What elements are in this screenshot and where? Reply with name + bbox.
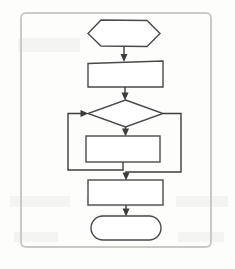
flowchart-edge-process1-to-decision [122, 87, 129, 101]
hexagon-shape [88, 20, 160, 47]
rectangle-shape [88, 180, 163, 205]
flowchart-edge-decision-to-loopbody [122, 127, 129, 137]
flowchart-edge-start-to-process1 [121, 47, 128, 63]
scanned-figure-page [0, 0, 235, 269]
arrowhead-icon [122, 93, 129, 101]
flowchart-node-end [91, 216, 161, 240]
flowchart-edge-process2-to-end [123, 205, 130, 217]
flowchart-node-start [88, 20, 160, 47]
arrowhead-icon [81, 110, 89, 117]
flowchart-node-decision [88, 100, 163, 127]
rounded-rectangle-shape [91, 216, 161, 240]
flowchart-diagram [0, 0, 235, 269]
flowchart-node-process-1 [88, 61, 163, 87]
arrowhead-icon [121, 54, 128, 62]
rectangle-shape [88, 61, 163, 87]
flowchart-node-process-2 [88, 180, 163, 205]
flowchart-node-loop-body [86, 136, 160, 162]
rectangle-shape [86, 136, 160, 162]
diamond-shape [88, 100, 163, 127]
